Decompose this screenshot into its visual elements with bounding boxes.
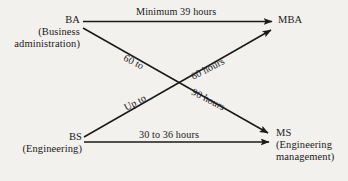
node-bs-line2: (Engineering) [22, 143, 82, 155]
node-ms: MS (Engineering management) [276, 127, 334, 164]
edge-ba-to-ms [83, 28, 268, 133]
node-ms-line2: (Engineering [276, 139, 334, 151]
node-ba-line1: BA [14, 14, 80, 26]
edge-label-bs-to-ms: 30 to 36 hours [139, 129, 199, 140]
node-ba: BA (Business administration) [14, 14, 80, 51]
node-ba-line2: (Business [14, 26, 80, 38]
node-ms-line1: MS [276, 127, 334, 139]
degree-pathway-diagram: BA (Business administration) BS (Enginee… [0, 0, 348, 181]
edge-label-ba-to-mba: Minimum 39 hours [136, 6, 216, 17]
edge-bs-to-mba [84, 30, 271, 137]
node-bs-line1: BS [22, 131, 82, 143]
node-ba-line3: administration) [14, 38, 80, 50]
node-ms-line3: management) [276, 151, 334, 163]
node-mba-line1: MBA [278, 14, 302, 26]
node-bs: BS (Engineering) [22, 131, 82, 155]
node-mba: MBA [278, 14, 302, 26]
